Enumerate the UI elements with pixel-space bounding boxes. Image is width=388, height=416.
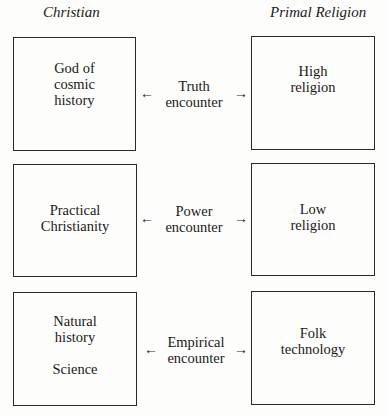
encounter-label: encounter	[165, 94, 222, 110]
arrow-left-icon: ←	[140, 86, 154, 102]
box-folk-technology: Folk technology	[251, 291, 375, 405]
encounter-label: encounter	[165, 219, 222, 235]
box-high-religion: High religion	[251, 36, 375, 150]
encounter-label: Empirical	[167, 334, 224, 350]
arrow-left-icon: ←	[140, 211, 154, 227]
box-text-line: Practical	[50, 202, 101, 218]
box-low-religion: Low religion	[251, 163, 375, 276]
box-text-line: Folk	[300, 325, 327, 341]
box-text-line: Science	[52, 361, 97, 377]
power-encounter-link: ← Power encounter →	[140, 203, 248, 235]
box-text-line: technology	[281, 341, 345, 357]
box-text-line: Natural	[53, 313, 96, 329]
column-title-christian: Christian	[43, 4, 100, 21]
box-text-line: cosmic	[54, 76, 95, 92]
truth-encounter-link: ← Truth encounter →	[140, 78, 248, 110]
box-text-line: history	[55, 329, 95, 345]
arrow-right-icon: →	[234, 342, 248, 358]
encounter-label: Power	[165, 203, 222, 219]
box-god-of-cosmic-history: God of cosmic history	[13, 37, 136, 151]
box-natural-history-science: Natural history Science	[13, 292, 137, 406]
box-text-line: Low	[300, 201, 327, 217]
box-text-line: religion	[290, 79, 335, 95]
box-text-line: God of	[54, 60, 95, 76]
box-text-line: High	[298, 63, 327, 79]
empirical-encounter-link: ← Empirical encounter →	[144, 334, 248, 366]
arrow-right-icon: →	[234, 211, 248, 227]
column-title-primal-religion: Primal Religion	[270, 4, 366, 21]
encounter-label: encounter	[167, 350, 224, 366]
encounter-label: Truth	[165, 78, 222, 94]
arrow-right-icon: →	[234, 86, 248, 102]
box-text-line: Christianity	[41, 218, 109, 234]
arrow-left-icon: ←	[144, 342, 158, 358]
box-practical-christianity: Practical Christianity	[13, 164, 137, 277]
box-text-line: religion	[290, 217, 335, 233]
box-text-line: history	[54, 92, 94, 108]
